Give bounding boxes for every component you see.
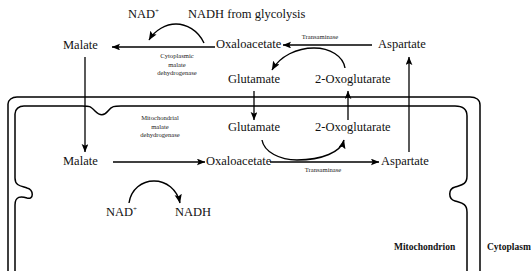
enzyme-line-2: malate — [141, 61, 213, 70]
mitochondrion-compartment-label: Mitochondrion — [394, 243, 455, 253]
cytosolic-aspartate-label: Aspartate — [378, 38, 426, 51]
mito-enzyme-line-3: dehydrogenase — [126, 131, 194, 140]
cytosolic-glutamate-label: Glutamate — [228, 73, 280, 86]
enzyme-line-1: Cytoplasmic — [141, 52, 213, 61]
mito-enzyme-line-2: malate — [126, 123, 194, 132]
mito-nad-nadh-curve — [129, 181, 180, 203]
cytosolic-transaminase-label: Transaminase — [292, 33, 348, 42]
cytosolic-nad-label: NAD+ — [128, 8, 159, 21]
cytosolic-oxoglutarate-glutamate-curve — [272, 48, 345, 70]
mito-transaminase-label: Transaminase — [295, 166, 351, 175]
cytosolic-oxaloacetate-label: Oxaloacetate — [216, 38, 281, 51]
mito-glutamate-oxoglutarate-curve — [262, 140, 344, 160]
mito-oxaloacetate-label: Oxaloacetate — [206, 155, 271, 168]
cytosolic-malate-label: Malate — [63, 39, 98, 52]
nadh-from-glycolysis-label: NADH from glycolysis — [188, 8, 305, 21]
mito-nad-plus-charge: + — [133, 205, 137, 213]
diagram-canvas: Malate Oxaloacetate Aspartate NAD+ NADH … — [0, 0, 531, 271]
mito-transaminase-text: Transaminase — [295, 166, 351, 175]
cytosolic-oxoglutarate-label: 2-Oxoglutarate — [315, 73, 391, 86]
mito-oxoglutarate-label: 2-Oxoglutarate — [315, 121, 391, 134]
mito-nad-label: NAD+ — [106, 206, 137, 219]
nad-plus-charge: + — [155, 7, 159, 15]
mito-aspartate-label: Aspartate — [381, 155, 429, 168]
cytoplasmic-malate-dehydrogenase-label: Cytoplasmic malate dehydrogenase — [141, 52, 213, 78]
cytosolic-nadh-nad-curve — [149, 24, 204, 43]
enzyme-line-3: dehydrogenase — [141, 69, 213, 78]
mito-enzyme-line-1: Mitochondrial — [126, 114, 194, 123]
mito-malate-label: Malate — [63, 155, 98, 168]
mito-nadh-label: NADH — [175, 206, 211, 219]
cytoplasm-compartment-label: Cytoplasm — [487, 243, 531, 253]
mitochondrial-malate-dehydrogenase-label: Mitochondrial malate dehydrogenase — [126, 114, 194, 140]
transaminase-text: Transaminase — [292, 33, 348, 42]
mito-glutamate-label: Glutamate — [228, 121, 280, 134]
